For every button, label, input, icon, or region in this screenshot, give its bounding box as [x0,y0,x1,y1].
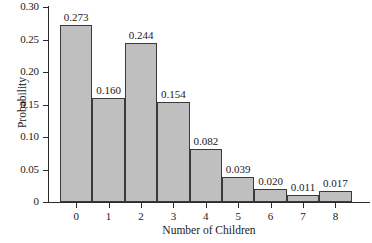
bar [157,102,189,202]
x-axis-tick-label: 2 [124,210,158,222]
chart-screenshot: 00.050.100.150.200.250.30 0.2730.1600.24… [0,0,372,243]
y-axis-tick [43,202,48,203]
bar-value-label: 0.082 [183,135,229,147]
x-axis-tick [109,203,110,208]
bar-value-label: 0.273 [53,11,99,23]
bar [60,25,92,202]
y-axis-tick [43,40,48,41]
x-axis-tick [303,203,304,208]
y-axis-tick-label: 0 [0,196,39,207]
x-axis-tick [335,203,336,208]
x-axis-tick [76,203,77,208]
y-axis-tick [43,105,48,106]
x-axis-tick-label: 5 [221,210,255,222]
x-axis-tick-label: 1 [92,210,126,222]
y-axis-tick [43,137,48,138]
x-axis-tick-label: 6 [254,210,288,222]
x-axis-tick-label: 0 [59,210,93,222]
bar-value-label: 0.017 [312,177,358,189]
x-axis-tick-label: 4 [189,210,223,222]
y-axis-tick [43,170,48,171]
x-axis-tick [271,203,272,208]
x-axis-title: Number of Children [48,224,370,237]
y-axis-tick-label: 0.05 [0,164,39,175]
bar [190,149,222,202]
bar [287,195,319,202]
x-axis-tick [206,203,207,208]
bar-value-label: 0.039 [215,163,261,175]
y-axis-tick [43,7,48,8]
bar [125,43,157,202]
x-axis-tick [238,203,239,208]
bar-chart-plot-area: 00.050.100.150.200.250.30 0.2730.1600.24… [0,0,372,243]
bar [92,98,124,202]
y-axis-tick-label: 0.30 [0,1,39,12]
y-axis-tick [43,72,48,73]
x-axis-line [48,202,370,203]
x-axis-tick [173,203,174,208]
x-axis-tick-label: 7 [286,210,320,222]
bar-value-label: 0.244 [118,29,164,41]
x-axis-tick-label: 8 [318,210,352,222]
x-axis-tick [141,203,142,208]
bar-value-label: 0.154 [150,88,196,100]
y-axis-line [48,6,49,203]
bar [319,191,351,202]
x-axis-tick-label: 3 [156,210,190,222]
y-axis-title: Probability [16,43,29,163]
